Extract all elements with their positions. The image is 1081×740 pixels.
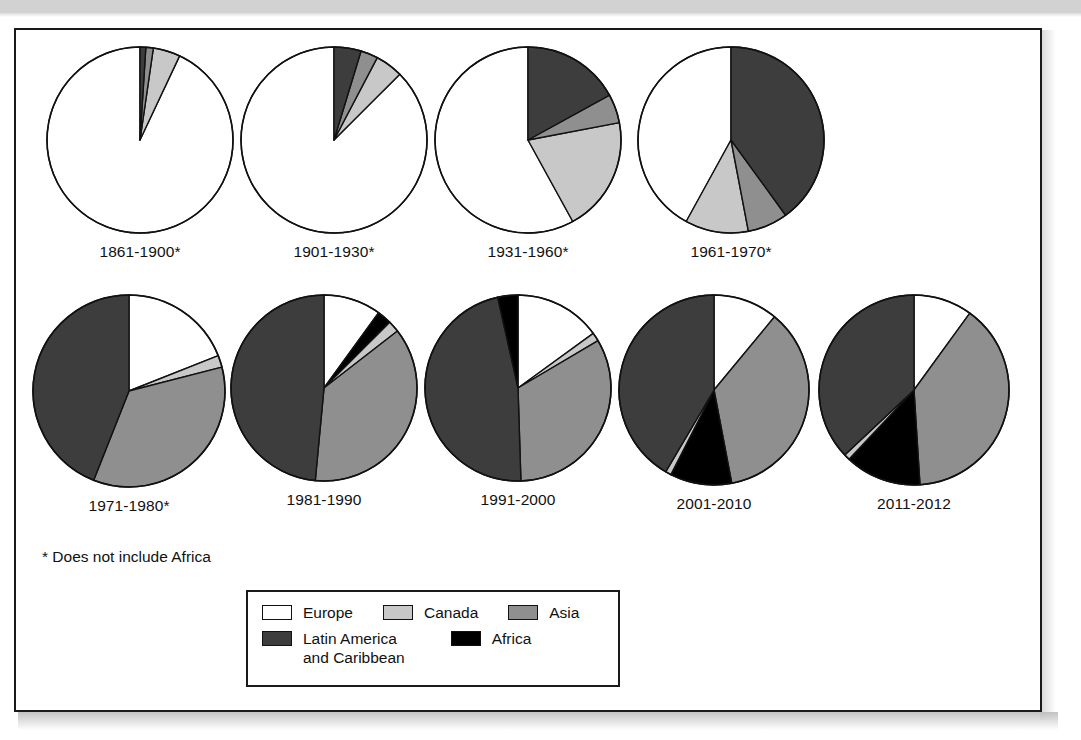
pie-period-label: 1901-1930* (238, 243, 430, 261)
legend-label-europe: Europe (303, 603, 353, 622)
scan-artifact-right-shadow (1040, 30, 1056, 720)
pie-panel-2011-2012[interactable]: 2011-2012 (816, 292, 1012, 513)
scan-artifact-top-band (0, 0, 1081, 13)
pie-period-label: 1971-1980* (30, 497, 228, 515)
pie-period-label: 1931-1960* (432, 243, 624, 261)
pie-panel-1901-1930[interactable]: 1901-1930* (238, 44, 430, 261)
pie-chart (30, 292, 228, 490)
pie-slice-latin-america-and-caribbean (231, 295, 324, 481)
pie-panel-1961-1970[interactable]: 1961-1970* (635, 44, 827, 261)
footnote: * Does not include Africa (42, 548, 211, 566)
pie-chart-svg (30, 292, 228, 490)
legend-label-latin-america: Latin America and Caribbean (303, 629, 405, 667)
pie-panel-1971-1980[interactable]: 1971-1980* (30, 292, 228, 515)
legend-swatch-europe (262, 605, 292, 620)
pie-period-label: 2001-2010 (616, 495, 812, 513)
pie-chart-svg (228, 292, 420, 484)
pie-chart-svg (616, 292, 812, 488)
pie-panel-1861-1900[interactable]: 1861-1900* (44, 44, 236, 261)
pie-panel-2001-2010[interactable]: 2001-2010 (616, 292, 812, 513)
legend-label-canada: Canada (424, 603, 478, 622)
legend-swatch-latin-america (262, 631, 292, 646)
pie-chart-svg (816, 292, 1012, 488)
legend-item-europe[interactable]: Europe (262, 603, 353, 622)
pie-chart (228, 292, 420, 484)
legend-row: Latin America and CaribbeanAfrica (262, 629, 618, 667)
pie-period-label: 2011-2012 (816, 495, 1012, 513)
legend-label-asia: Asia (549, 603, 579, 622)
pie-chart (432, 44, 624, 236)
pie-panel-1991-2000[interactable]: 1991-2000 (422, 292, 614, 509)
pie-panel-1931-1960[interactable]: 1931-1960* (432, 44, 624, 261)
pie-chart-svg (44, 44, 236, 236)
pie-chart-svg (238, 44, 430, 236)
pie-chart (422, 292, 614, 484)
legend-item-africa[interactable]: Africa (451, 629, 532, 648)
scan-artifact-bottom-shadow (18, 712, 1058, 730)
legend-item-latin-america[interactable]: Latin America and Caribbean (262, 629, 405, 667)
legend-label-africa: Africa (492, 629, 532, 648)
pie-chart (616, 292, 812, 488)
scan-artifact-top-fade (0, 13, 1081, 17)
pie-chart (635, 44, 827, 236)
legend-swatch-asia (508, 605, 538, 620)
pie-chart-svg (422, 292, 614, 484)
pie-chart (816, 292, 1012, 488)
legend-swatch-africa (451, 631, 481, 646)
legend-item-asia[interactable]: Asia (508, 603, 579, 622)
pie-chart (238, 44, 430, 236)
pie-period-label: 1991-2000 (422, 491, 614, 509)
pie-chart (44, 44, 236, 236)
pie-period-label: 1861-1900* (44, 243, 236, 261)
pie-panel-1981-1990[interactable]: 1981-1990 (228, 292, 420, 509)
pie-chart-svg (635, 44, 827, 236)
figure-frame: 1861-1900*1901-1930*1931-1960*1961-1970*… (14, 28, 1042, 712)
pie-chart-svg (432, 44, 624, 236)
legend-row: EuropeCanadaAsia (262, 603, 618, 622)
legend-swatch-canada (383, 605, 413, 620)
pie-period-label: 1981-1990 (228, 491, 420, 509)
pie-period-label: 1961-1970* (635, 243, 827, 261)
legend: EuropeCanadaAsia Latin America and Carib… (246, 590, 620, 687)
legend-item-canada[interactable]: Canada (383, 603, 478, 622)
